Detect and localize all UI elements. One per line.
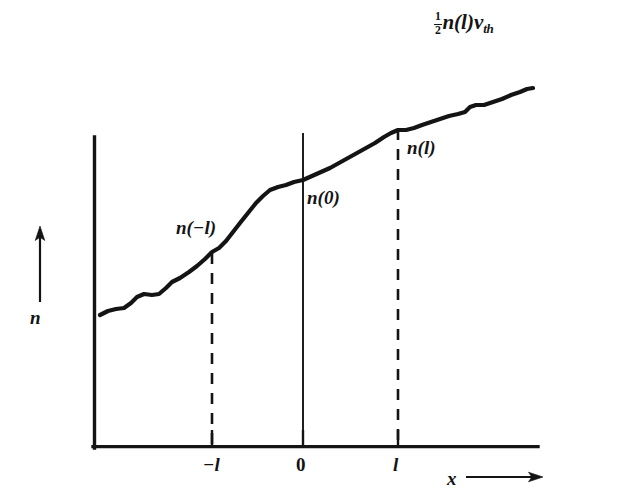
figure-canvas bbox=[0, 0, 627, 500]
tick-label-l: l bbox=[393, 455, 398, 474]
curve-label-n-minus-l: n(−l) bbox=[176, 218, 216, 237]
flux-expression-label: 1 2 n(l)vth bbox=[434, 11, 494, 37]
fraction-denominator: 2 bbox=[434, 25, 442, 38]
flux-velocity-subscript: th bbox=[483, 21, 493, 36]
tick-label-minus-l: −l bbox=[203, 455, 220, 474]
flux-velocity-symbol: v bbox=[474, 10, 483, 34]
x-axis-label: x bbox=[447, 469, 457, 488]
flux-density-term: n(l) bbox=[442, 10, 474, 34]
figure-container: 1 2 n(l)vth n(−l) n(0) n(l) −l 0 l n x bbox=[0, 0, 627, 500]
y-axis-label: n bbox=[30, 308, 41, 327]
x-axis-arrow bbox=[466, 472, 543, 482]
fraction-numerator: 1 bbox=[434, 11, 442, 25]
curve-label-n-l: n(l) bbox=[407, 138, 436, 157]
y-axis-arrow bbox=[35, 226, 45, 302]
curve-label-n-zero: n(0) bbox=[307, 188, 340, 207]
tick-label-zero: 0 bbox=[296, 455, 306, 474]
one-half-fraction: 1 2 bbox=[434, 11, 442, 37]
